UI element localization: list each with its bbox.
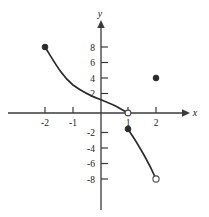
filled-point-marker-2-4	[153, 75, 159, 81]
y-tick-label--2: -2	[87, 128, 95, 138]
y-tick-label-8: 8	[90, 43, 95, 53]
y-tick-label-6: 6	[90, 58, 95, 68]
y-axis	[97, 20, 104, 210]
x-axis-label: x	[192, 107, 198, 118]
upper-decay-curve	[45, 47, 128, 113]
x-tick-label--1: -1	[69, 118, 77, 128]
y-axis-arrow-icon	[97, 20, 104, 28]
graph-figure: -2 -1 1 2 8 6 4 2 -2 -4 -6 -8 x y	[0, 0, 209, 217]
y-tick-label--8: -8	[87, 175, 95, 185]
y-tick-label-4: 4	[90, 74, 95, 84]
y-axis-label: y	[97, 8, 103, 19]
x-axis-arrow-icon	[182, 109, 190, 116]
x-axis	[8, 109, 190, 116]
open-point-marker-1-0	[125, 110, 131, 116]
filled-point-marker-1-neg2	[125, 126, 131, 132]
x-tick-label-2: 2	[154, 118, 159, 128]
open-point-marker-2-neg8	[153, 176, 159, 182]
filled-point-marker-neg2-8	[42, 44, 48, 50]
plot-canvas: -2 -1 1 2 8 6 4 2 -2 -4 -6 -8 x y	[0, 0, 209, 217]
y-tick-label--6: -6	[87, 159, 95, 169]
x-tick-labels: -2 -1 1 2	[41, 118, 159, 128]
y-tick-label--4: -4	[87, 144, 95, 154]
x-tick-label--2: -2	[41, 118, 49, 128]
lower-curve	[128, 129, 156, 179]
